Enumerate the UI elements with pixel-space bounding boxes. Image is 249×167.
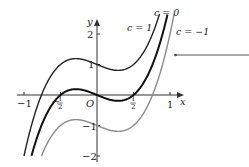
svg-text:2: 2 bbox=[131, 103, 135, 111]
x-tick-label-half: 1 2 bbox=[130, 95, 136, 111]
x-tick-label-1: 1 bbox=[167, 99, 173, 110]
y-tick-label-1: 1 bbox=[88, 59, 94, 70]
x-tick-label-neg1: −1 bbox=[17, 98, 32, 109]
series-label-c0: c = 0 bbox=[154, 7, 179, 18]
y-tick-label-neg1: −1 bbox=[82, 121, 97, 132]
series-label-cm1: c = −1 bbox=[176, 26, 209, 37]
svg-text:1: 1 bbox=[58, 95, 62, 103]
svg-text:2: 2 bbox=[58, 103, 62, 111]
curve-series bbox=[24, 14, 174, 156]
y-tick-label-neg2: −2 bbox=[82, 151, 97, 162]
origin-label: O bbox=[86, 98, 94, 109]
pointer-dot-icon bbox=[174, 54, 177, 57]
y-axis-label: y bbox=[86, 16, 93, 27]
svg-text:1: 1 bbox=[131, 95, 135, 103]
curve-c-neg1 bbox=[42, 15, 175, 156]
x-axis-label: x bbox=[180, 96, 186, 107]
y-tick-label-2: 2 bbox=[87, 29, 93, 40]
cubic-family-plot: −1 − 1 2 1 2 1 x 2 1 −1 −2 y O c = 1 c =… bbox=[0, 0, 249, 167]
x-tick-label-neg-half: − 1 2 bbox=[52, 95, 63, 111]
y-axis-arrow-icon bbox=[94, 19, 100, 26]
series-label-c1: c = 1 bbox=[127, 22, 152, 33]
